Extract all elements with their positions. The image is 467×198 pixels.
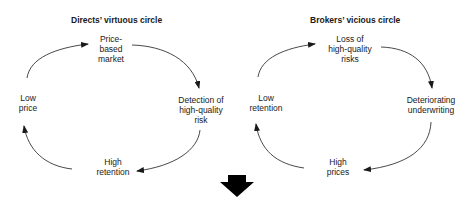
cycle-arrows	[0, 0, 467, 198]
arrow-right-bottom-to-left	[256, 124, 304, 168]
arrow-top-to-right	[132, 45, 199, 88]
arrow-right-to-bottom	[137, 130, 200, 171]
down-arrow-icon	[220, 175, 254, 197]
arrow-right-top-to-right	[381, 47, 432, 88]
arrow-right-right-to-bottom	[364, 122, 431, 170]
arrow-bottom-to-left	[24, 126, 72, 169]
arrow-left-to-top	[27, 44, 88, 78]
arrow-right-left-to-top	[258, 44, 315, 77]
